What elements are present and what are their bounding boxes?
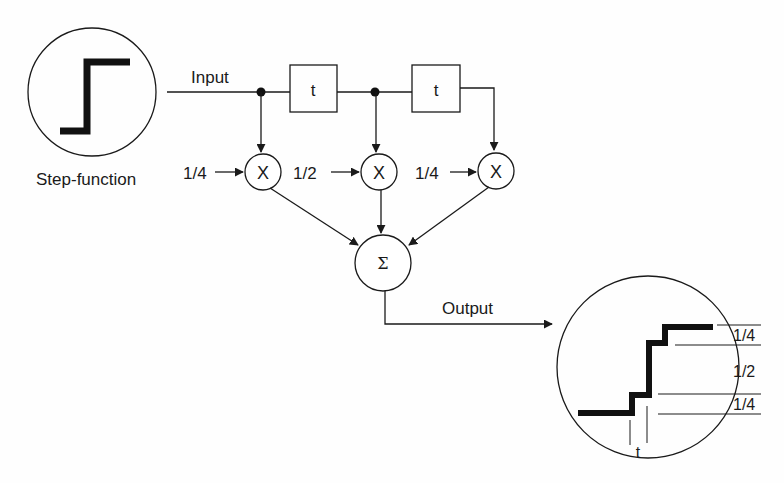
coefficient-label-1: 1/4 <box>183 164 207 183</box>
staircase-response-icon <box>578 327 713 413</box>
output-step-label-bottom: 1/4 <box>733 396 755 413</box>
coefficient-label-2: 1/2 <box>293 164 317 183</box>
multiplier-symbol-3: X <box>490 162 502 182</box>
delay-label-1: t <box>311 81 316 100</box>
step-icon <box>60 62 130 131</box>
multiplier-symbol-2: X <box>373 163 385 183</box>
diagram-canvas: Step-function Input t t X 1/4 X 1/2 X 1/… <box>0 0 784 483</box>
output-step-label-top: 1/4 <box>733 327 755 344</box>
output-response-node <box>557 276 761 458</box>
coefficient-label-3: 1/4 <box>415 164 439 183</box>
delay-label-2: t <box>434 81 439 100</box>
input-label: Input <box>191 68 229 87</box>
sigma-symbol: Σ <box>377 254 388 273</box>
step-function-label: Step-function <box>36 170 136 189</box>
multiplier-symbol-1: X <box>257 163 269 183</box>
output-step-label-middle: 1/2 <box>733 363 755 380</box>
fir-filter-diagram: Step-function Input t t X 1/4 X 1/2 X 1/… <box>0 0 784 483</box>
output-time-label: t <box>636 444 641 461</box>
input-step-function-node <box>28 28 156 156</box>
junction-dot-2 <box>371 88 380 97</box>
output-label: Output <box>442 299 493 318</box>
